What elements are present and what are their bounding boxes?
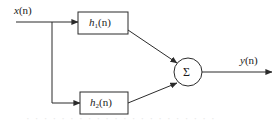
- scan-bleed-artifact: · · · · · · · · · · · · · · · · · · · · …: [26, 112, 252, 123]
- output-signal-arg: (n): [245, 54, 258, 66]
- block-h2-subscript: 2: [96, 102, 100, 110]
- block-h1-subscript: 1: [95, 22, 99, 30]
- h2-to-adder-line: [128, 83, 177, 103]
- diagram-canvas: [0, 0, 277, 125]
- block-h2-base: h: [90, 96, 96, 108]
- block-diagram: x(n) y(n) h1(n) h2(n) Σ · · · · · · · · …: [0, 0, 277, 125]
- input-signal-arg: (n): [19, 4, 32, 16]
- input-signal-label: x(n): [14, 5, 32, 16]
- output-signal-label: y(n): [240, 55, 258, 66]
- h1-to-adder-line: [128, 30, 177, 63]
- block-h2-label: h2(n): [90, 97, 112, 108]
- block-h1-arg: (n): [98, 16, 111, 28]
- block-h1-label: h1(n): [89, 17, 111, 28]
- summation-symbol: Σ: [183, 66, 190, 78]
- block-h1-base: h: [89, 16, 95, 28]
- block-h2-arg: (n): [99, 96, 112, 108]
